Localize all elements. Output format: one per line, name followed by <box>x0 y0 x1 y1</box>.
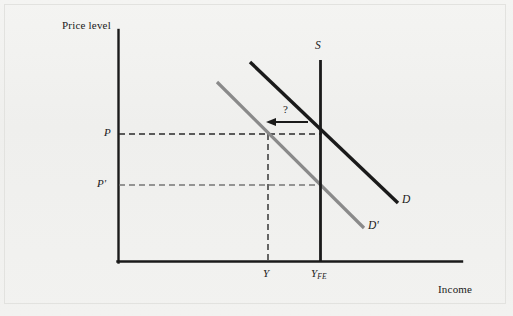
shift-arrow-icon <box>266 118 308 126</box>
x-axis-label: Income <box>438 283 472 295</box>
curve-label-demand-original: D <box>402 193 410 205</box>
tick-label-price-high: P <box>104 126 111 138</box>
curve-label-supply: S <box>315 39 321 51</box>
tick-label-price-low: P' <box>97 177 106 189</box>
curve-label-demand-shifted: D' <box>368 219 379 231</box>
shift-question-mark: ? <box>283 103 288 115</box>
figure-container: Price level Income P P' Y YFE S D D' ? <box>0 0 513 316</box>
demand-original-curve <box>250 62 398 203</box>
demand-shifted-curve <box>217 82 364 228</box>
tick-label-income-full-employment: YFE <box>311 267 327 279</box>
tick-label-income-actual: Y <box>263 267 269 279</box>
income-fe-subscript: FE <box>317 272 327 281</box>
diagram-canvas <box>0 0 513 316</box>
y-axis-label: Price level <box>62 19 111 31</box>
